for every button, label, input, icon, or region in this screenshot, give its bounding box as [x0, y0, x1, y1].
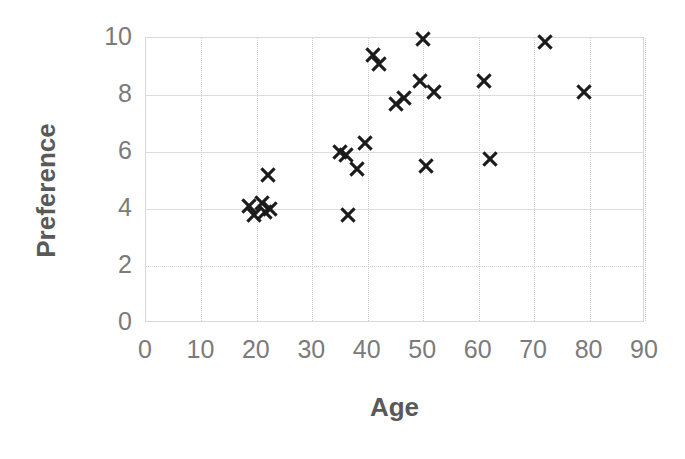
data-point: [347, 159, 367, 179]
gridline-vertical-40: [368, 38, 370, 321]
data-point: [258, 165, 278, 185]
y-tick-label-4: 4: [94, 195, 132, 220]
data-point: [239, 196, 259, 216]
gridline-vertical-50: [423, 38, 425, 321]
x-tick-label-40: 40: [339, 337, 395, 362]
x-tick-label-90: 90: [616, 337, 672, 362]
gridline-vertical-90: [645, 38, 647, 321]
y-axis-title: Preference: [31, 71, 62, 311]
y-tick-label-0: 0: [94, 309, 132, 334]
data-point: [355, 133, 375, 153]
data-point: [394, 88, 414, 108]
gridline-horizontal-4: [146, 209, 643, 211]
data-point: [336, 145, 356, 165]
y-tick-label-10: 10: [94, 24, 132, 49]
x-axis-tick-labels: 0102030405060708090: [145, 337, 644, 373]
data-point: [244, 205, 264, 225]
data-point: [424, 82, 444, 102]
gridline-vertical-20: [257, 38, 259, 321]
plot-area: [145, 37, 644, 322]
x-tick-label-30: 30: [283, 337, 339, 362]
y-tick-label-8: 8: [94, 81, 132, 106]
data-point: [535, 32, 555, 52]
gridline-vertical-30: [312, 38, 314, 321]
gridline-horizontal-6: [146, 152, 643, 154]
data-point: [338, 205, 358, 225]
gridline-vertical-60: [479, 38, 481, 321]
data-point: [369, 54, 389, 74]
gridline-vertical-80: [590, 38, 592, 321]
x-tick-label-20: 20: [228, 337, 284, 362]
gridline-horizontal-2: [146, 266, 643, 268]
scatter-chart: 0246810 0102030405060708090 Preference A…: [0, 0, 685, 459]
x-tick-label-0: 0: [117, 337, 173, 362]
x-tick-label-60: 60: [450, 337, 506, 362]
y-axis-tick-labels: 0246810: [86, 0, 132, 459]
x-axis-title: Age: [145, 392, 644, 423]
x-tick-label-80: 80: [561, 337, 617, 362]
gridline-vertical-70: [534, 38, 536, 321]
data-point: [474, 71, 494, 91]
gridline-vertical-10: [201, 38, 203, 321]
gridline-horizontal-8: [146, 95, 643, 97]
data-point: [410, 71, 430, 91]
x-tick-label-10: 10: [172, 337, 228, 362]
x-tick-label-50: 50: [394, 337, 450, 362]
x-tick-label-70: 70: [505, 337, 561, 362]
data-point: [363, 45, 383, 65]
y-tick-label-6: 6: [94, 138, 132, 163]
data-point: [416, 156, 436, 176]
y-tick-label-2: 2: [94, 252, 132, 277]
